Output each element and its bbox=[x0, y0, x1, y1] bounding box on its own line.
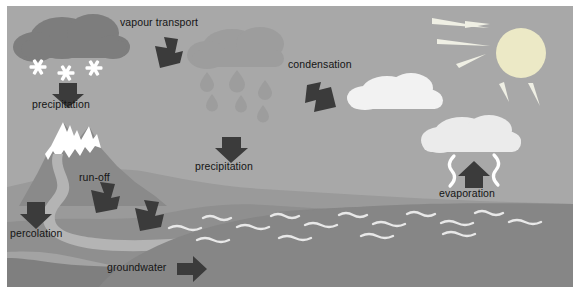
diagram-canvas bbox=[7, 6, 573, 287]
label-vapour-transport: vapour transport bbox=[120, 17, 198, 28]
label-condensation: condensation bbox=[288, 59, 352, 70]
diagram-frame: vapour transport precipitation precipita… bbox=[7, 6, 573, 287]
water-cycle-diagram: vapour transport precipitation precipita… bbox=[0, 0, 580, 293]
label-percolation: percolation bbox=[10, 228, 62, 239]
label-run-off: run-off bbox=[79, 172, 110, 183]
label-evaporation: evaporation bbox=[439, 188, 495, 199]
label-precipitation-snow: precipitation bbox=[32, 99, 90, 110]
label-precipitation-rain: precipitation bbox=[195, 161, 253, 172]
label-groundwater: groundwater bbox=[107, 262, 166, 273]
